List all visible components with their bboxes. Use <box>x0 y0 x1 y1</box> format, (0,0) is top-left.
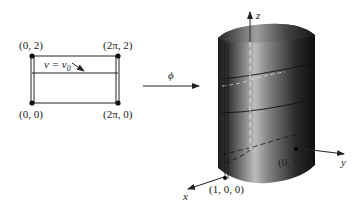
point-label-0-1-0: (0, 1, 0) <box>278 156 313 169</box>
corner-label-bottom-right: (2π, 0) <box>103 108 133 121</box>
diagram-canvas: (0, 2) (2π, 2) (0, 0) (2π, 0) v = v0 ϕ z… <box>0 0 361 202</box>
v-label-subscript: 0 <box>67 64 71 73</box>
v-equals-v0-label: v = v0 <box>44 58 71 73</box>
v-label-main: v = v <box>44 58 67 70</box>
phi-label: ϕ <box>168 69 174 81</box>
y-axis-label: y <box>340 156 346 168</box>
corner-dot-bottom-left <box>29 100 34 105</box>
point-1-0-0-dot <box>223 176 227 180</box>
corner-label-top-right: (2π, 2) <box>103 39 133 52</box>
z-axis-label: z <box>255 9 261 21</box>
point-label-1-0-0: (1, 0, 0) <box>209 183 244 196</box>
point-0-1-0-dot <box>294 147 298 151</box>
corner-label-bottom-left: (0, 0) <box>19 108 43 121</box>
corner-dot-top-right <box>115 53 120 58</box>
corner-dot-bottom-right <box>115 100 120 105</box>
corner-label-top-left: (0, 2) <box>19 39 43 52</box>
corner-dot-top-left <box>29 53 34 58</box>
x-axis-label: x <box>182 190 188 202</box>
